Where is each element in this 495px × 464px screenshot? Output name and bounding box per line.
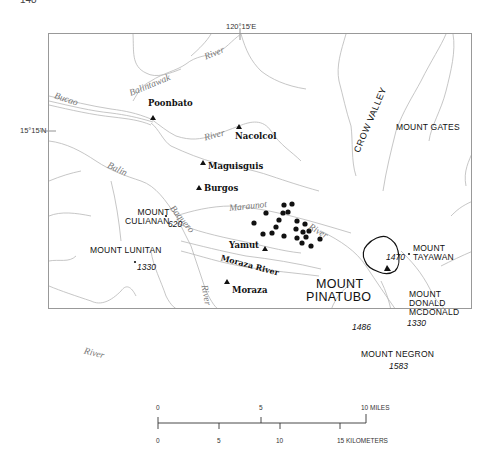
scale-km-0: 0 [156,437,160,444]
scale-km-end: 15 KILOMETERS [337,437,388,444]
scale-miles-end: 10 MILES [361,404,390,411]
scale-km-5: 5 [217,437,221,444]
scale-miles-0: 0 [156,404,160,411]
scale-bar [0,0,495,464]
scale-miles-5: 5 [259,404,263,411]
scale-km-10: 10 [276,437,283,444]
